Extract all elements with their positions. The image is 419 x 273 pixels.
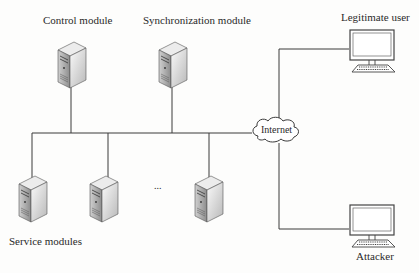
attacker-label: Attacker [356,250,394,262]
internet-label: Internet [261,124,292,135]
diagram-lines [0,0,419,273]
control-server-icon [58,42,86,88]
service-server-icon-1 [19,176,47,222]
synchronization-module-label: Synchronization module [143,14,251,26]
ellipsis-label: ... [154,180,162,191]
attacker-computer-icon [350,205,395,247]
service-server-icon-2 [90,176,118,222]
legitimate-user-computer-icon [350,30,395,72]
control-module-label: Control module [43,14,112,26]
sync-server-icon [159,42,187,88]
legitimate-user-label: Legitimate user [341,11,410,23]
network-architecture-diagram: Control module Synchronization module Le… [0,0,419,273]
service-server-icon-3 [195,176,223,222]
service-modules-label: Service modules [9,235,82,247]
